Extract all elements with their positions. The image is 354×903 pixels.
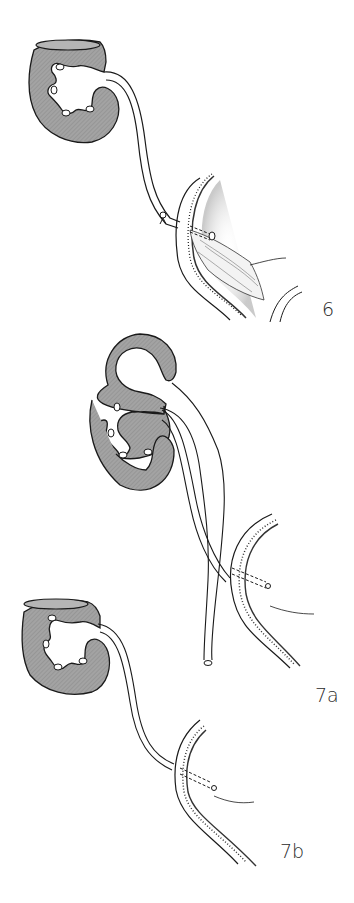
figure-label-7b: 7b	[280, 840, 304, 862]
panel-7a	[90, 334, 314, 668]
ureter	[104, 72, 180, 222]
bladder-wall	[231, 514, 314, 668]
medical-illustration	[0, 0, 354, 903]
bladder-wall	[176, 174, 302, 322]
ureter	[98, 624, 174, 770]
panel-6	[29, 40, 302, 322]
ureter-cut-end-icon	[204, 661, 212, 666]
bladder-wall	[175, 720, 256, 866]
kidney-icon	[22, 599, 109, 694]
kidney-dilated-icon	[90, 334, 176, 490]
figure-label-7a: 7a	[315, 684, 339, 706]
panel-7b	[22, 599, 256, 866]
kidney-icon	[29, 40, 119, 143]
figure-label-6: 6	[322, 298, 334, 320]
